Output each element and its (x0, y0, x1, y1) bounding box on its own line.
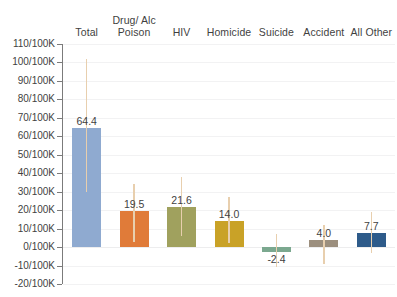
bar-value-label: -2.4 (251, 253, 301, 265)
error-bar (181, 177, 182, 236)
y-axis-tick (57, 155, 62, 156)
y-axis-tick-label: -20/100K (0, 278, 55, 289)
y-axis-tick (57, 44, 62, 45)
chart-container: TotalDrug/ Alc PoisonHIVHomicideSuicideA… (0, 0, 397, 297)
gridline (63, 173, 395, 174)
gridline (63, 44, 395, 45)
y-axis-tick (57, 173, 62, 174)
y-axis-tick (57, 229, 62, 230)
y-axis-tick (57, 136, 62, 137)
gridline (63, 136, 395, 137)
y-axis-tick-label: 60/100K (0, 130, 55, 141)
y-axis-tick-label: 50/100K (0, 149, 55, 160)
y-axis-labels: 110/100K100/100K90/100K80/100K70/100K60/… (0, 44, 55, 284)
gridline (63, 99, 395, 100)
y-axis-tick-label: 90/100K (0, 75, 55, 86)
y-axis-tick-label: -10/100K (0, 260, 55, 271)
y-axis-tick-label: 110/100K (0, 38, 55, 49)
bar-value-label: 19.5 (109, 198, 159, 210)
category-label: All Other (344, 26, 397, 38)
bar-value-label: 21.6 (157, 194, 207, 206)
y-axis-tick (57, 62, 62, 63)
y-axis-tick-label: 10/100K (0, 223, 55, 234)
bar-value-label: 14.0 (204, 208, 254, 220)
gridline (63, 155, 395, 156)
bar-value-label: 7.7 (346, 220, 396, 232)
gridline (63, 284, 395, 285)
y-axis-tick (57, 118, 62, 119)
error-bar (371, 212, 372, 253)
y-axis-tick-label: 20/100K (0, 204, 55, 215)
y-axis-tick (57, 210, 62, 211)
y-axis-tick-label: 70/100K (0, 112, 55, 123)
y-axis-tick-label: 30/100K (0, 186, 55, 197)
y-axis-tick (57, 284, 62, 285)
y-axis-tick-label: 100/100K (0, 56, 55, 67)
error-bar (228, 197, 229, 243)
gridline (63, 192, 395, 193)
y-axis-tick-label: 0/100K (0, 241, 55, 252)
gridline (63, 62, 395, 63)
gridline (63, 247, 395, 248)
category-label-row: TotalDrug/ Alc PoisonHIVHomicideSuicideA… (63, 0, 397, 40)
gridline (63, 81, 395, 82)
gridline (63, 118, 395, 119)
y-axis-tick (57, 266, 62, 267)
y-axis-tick-label: 80/100K (0, 93, 55, 104)
y-axis-tick (57, 99, 62, 100)
error-bar (133, 184, 134, 241)
y-axis-tick (57, 192, 62, 193)
gridline (63, 266, 395, 267)
plot-area: 64.419.521.614.0-2.44.07.7 (63, 44, 395, 284)
y-axis-tick-label: 40/100K (0, 167, 55, 178)
bar-value-label: 64.4 (62, 115, 112, 127)
bar-value-label: 4.0 (299, 227, 349, 239)
y-axis-tick (57, 247, 62, 248)
y-axis-tick (57, 81, 62, 82)
